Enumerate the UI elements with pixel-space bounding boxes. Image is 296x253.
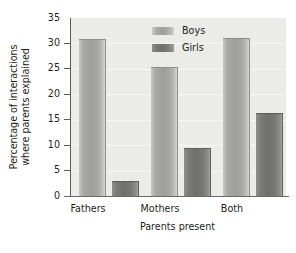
x-tick-label-both: Both xyxy=(202,203,262,214)
legend-item-girls: Girls xyxy=(152,43,205,53)
y-axis-title: Percentage of interactions where parents… xyxy=(8,12,38,202)
x-axis-title: Parents present xyxy=(70,221,285,232)
y-tick-label-35: 35 xyxy=(40,13,60,23)
y-tick-label-25: 25 xyxy=(40,63,60,73)
x-tick-label-fathers: Fathers xyxy=(58,203,118,214)
x-tick-label-mothers: Mothers xyxy=(130,203,190,214)
bar-mothers-girls xyxy=(184,148,211,196)
bar-fathers-girls xyxy=(112,181,139,196)
legend-label-girls: Girls xyxy=(182,43,204,53)
y-tick-label-0: 0 xyxy=(40,191,60,201)
y-axis-title-line-1: Percentage of interactions xyxy=(8,12,20,202)
y-tick-label-20: 20 xyxy=(40,89,60,99)
y-tick-label-30: 30 xyxy=(40,38,60,48)
bar-both-girls xyxy=(256,113,283,196)
bar-mothers-boys xyxy=(151,67,178,196)
y-axis-title-line-2: where parents explained xyxy=(20,12,32,202)
bar-both-boys xyxy=(223,38,250,196)
legend-item-boys: Boys xyxy=(152,26,205,36)
legend-swatch-boys-icon xyxy=(152,27,174,35)
bar-chart-figure: Percentage of interactions where parents… xyxy=(0,0,296,253)
legend-swatch-girls-icon xyxy=(152,44,174,52)
x-axis-line xyxy=(64,196,289,197)
y-tick-label-15: 15 xyxy=(40,114,60,124)
legend-label-boys: Boys xyxy=(182,26,205,36)
y-tick-label-5: 5 xyxy=(40,165,60,175)
chart-legend: Boys Girls xyxy=(152,26,205,60)
y-tick-label-10: 10 xyxy=(40,140,60,150)
bar-fathers-boys xyxy=(79,39,106,196)
y-axis-tick-labels: 35 30 25 20 15 10 5 0 xyxy=(36,0,60,253)
